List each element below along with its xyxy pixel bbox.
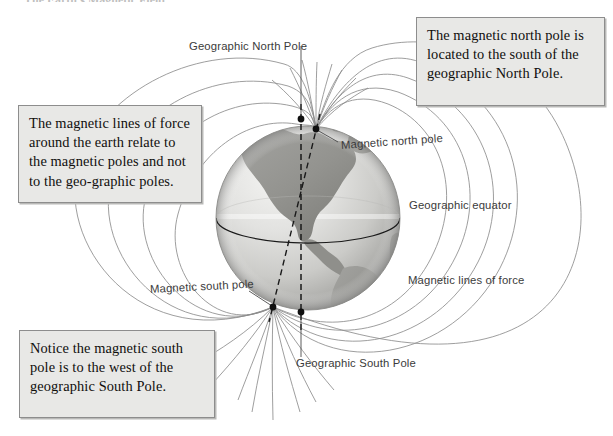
callout-magnetic-lines-of-force: The magnetic lines of force around the e… bbox=[18, 105, 202, 203]
magnetic-north-pole-dot bbox=[313, 126, 320, 133]
callout-magnetic-south-pole: Notice the magnetic south pole is to the… bbox=[19, 330, 215, 418]
label-geographic-equator: Geographic equator bbox=[409, 199, 512, 211]
arctic-islands-b bbox=[354, 119, 366, 127]
label-geographic-north-pole: Geographic North Pole bbox=[189, 40, 307, 52]
arctic-islands-c bbox=[374, 118, 386, 126]
callout-magnetic-north-pole: The magnetic north pole is located to th… bbox=[416, 17, 605, 106]
geographic-north-pole-dot bbox=[298, 116, 305, 123]
label-magnetic-lines-of-force: Magnetic lines of force bbox=[408, 274, 524, 286]
label-geographic-south-pole: Geographic South Pole bbox=[296, 357, 416, 369]
geographic-south-pole-dot bbox=[298, 309, 305, 316]
figure-canvas: The Earth's Magnetic Field bbox=[0, 0, 613, 436]
magnetic-south-pole-dot bbox=[270, 304, 277, 311]
globe bbox=[216, 118, 407, 374]
